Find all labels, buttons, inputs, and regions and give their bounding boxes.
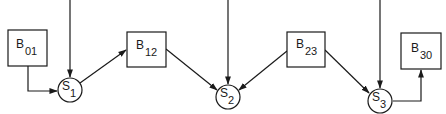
box-b23: B 23: [287, 32, 325, 67]
box-b01: B 01: [8, 30, 47, 66]
circle-s2-letter: S: [220, 86, 228, 100]
edge-b23-to-s3: [325, 50, 369, 93]
circle-s1-letter: S: [62, 79, 70, 93]
edge-b01-to-s1: [28, 66, 57, 91]
edge-s3-to-b30: [393, 70, 421, 101]
box-b12: B 12: [127, 32, 166, 67]
box-b12-letter: B: [136, 38, 144, 52]
box-b30-letter: B: [411, 41, 419, 55]
box-b30: B 30: [401, 33, 441, 69]
circle-s2-subscript: 2: [228, 94, 234, 106]
box-b30-subscript: 30: [420, 49, 432, 61]
circle-s1: S 1: [58, 78, 82, 102]
box-b23-subscript: 23: [305, 45, 317, 57]
box-b23-letter: B: [296, 37, 304, 51]
edge-b12-to-s2: [166, 49, 217, 90]
edge-b23-to-s2: [239, 51, 287, 90]
box-b01-subscript: 01: [25, 45, 37, 57]
edge-s1-to-b12: [80, 50, 126, 83]
circle-s1-subscript: 1: [70, 87, 76, 99]
box-b01-letter: B: [16, 37, 24, 51]
circle-s3-letter: S: [372, 90, 380, 104]
circle-s3-subscript: 3: [380, 98, 386, 110]
circle-s3: S 3: [368, 89, 392, 113]
flow-diagram: B 01 B 12 B 23 B 30 S 1 S 2 S 3: [0, 0, 446, 114]
box-b12-subscript: 12: [145, 46, 157, 58]
circle-s2: S 2: [216, 85, 240, 109]
